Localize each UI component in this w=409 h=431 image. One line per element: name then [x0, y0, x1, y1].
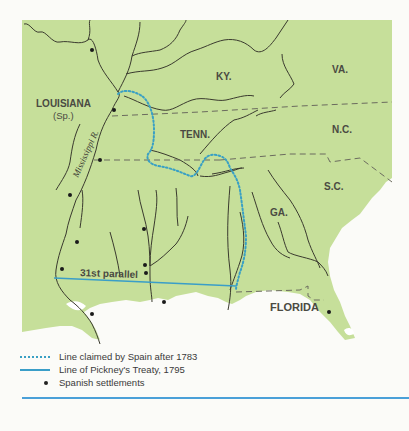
dot-icon	[18, 379, 52, 387]
legend-item-spain-claim: Line claimed by Spain after 1783	[18, 350, 318, 363]
label-kentucky: KY.	[216, 71, 232, 82]
dotted-line-icon	[18, 353, 52, 361]
legend: Line claimed by Spain after 1783 Line of…	[18, 350, 318, 389]
solid-line-icon	[18, 366, 52, 374]
label-louisiana-sub: (Sp.)	[53, 110, 74, 121]
map: LOUISIANA (Sp.) Mississippi R. KY. VA. T…	[0, 0, 409, 360]
divider-rule	[22, 397, 409, 399]
legend-label: Line of Pickney's Treaty, 1795	[59, 364, 185, 375]
label-tennessee: TENN.	[180, 129, 210, 140]
label-louisiana: LOUISIANA	[36, 98, 91, 109]
label-florida: FLORIDA	[270, 301, 319, 313]
legend-label: Spanish settlements	[59, 377, 145, 388]
legend-item-settlements: Spanish settlements	[18, 376, 318, 389]
label-georgia: GA.	[270, 207, 288, 218]
legend-label: Line claimed by Spain after 1783	[59, 351, 197, 362]
label-31st-parallel: 31st parallel	[80, 267, 138, 280]
label-north-carolina: N.C.	[332, 124, 352, 135]
label-virginia: VA.	[332, 64, 348, 75]
legend-item-pickney-treaty: Line of Pickney's Treaty, 1795	[18, 363, 318, 376]
label-south-carolina: S.C.	[324, 181, 344, 192]
